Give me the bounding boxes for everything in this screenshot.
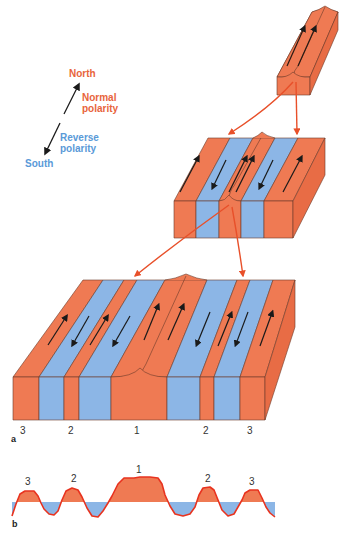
profile-label-1: 1: [136, 464, 142, 475]
legend-polarity-arrows: [46, 86, 78, 152]
seafloor-spreading-diagram: [0, 0, 356, 543]
block-label-3-left: 3: [20, 425, 26, 436]
block-label-2-left: 2: [68, 425, 74, 436]
middle-ridge-block: [174, 132, 325, 238]
large-ridge-block: [13, 274, 295, 420]
block-label-1: 1: [134, 425, 140, 436]
block-label-3-right: 3: [247, 425, 253, 436]
south-arrow-icon: [46, 123, 60, 152]
north-arrow-icon: [64, 86, 78, 114]
profile-label-3-right: 3: [249, 476, 255, 487]
panel-label-b: b: [12, 519, 18, 529]
profile-label-2-left: 2: [71, 473, 77, 484]
magnetic-anomaly-profile: [12, 477, 275, 517]
panel-label-a: a: [11, 434, 16, 444]
block-label-2-right: 2: [203, 425, 209, 436]
profile-label-2-right: 2: [205, 473, 211, 484]
small-ridge-block: [277, 6, 338, 95]
profile-label-3-left: 3: [25, 476, 31, 487]
